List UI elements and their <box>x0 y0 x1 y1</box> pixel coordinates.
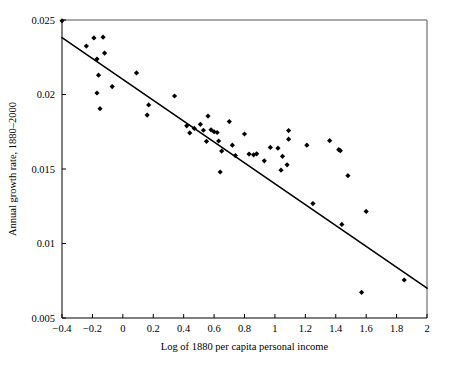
scatter-point <box>59 18 64 23</box>
scatter-point <box>216 138 221 143</box>
scatter-point <box>286 128 291 133</box>
scatter-point <box>286 137 291 142</box>
scatter-point <box>145 112 150 117</box>
scatter-point <box>97 106 102 111</box>
scatter-point <box>84 43 89 48</box>
x-tick-label: 1.2 <box>299 323 312 334</box>
x-tick-label: 1 <box>272 323 277 334</box>
scatter-point <box>187 130 192 135</box>
y-tick-label: 0.025 <box>31 15 55 26</box>
scatter-point <box>204 139 209 144</box>
scatter-point <box>96 73 101 78</box>
scatter-point <box>227 119 232 124</box>
scatter-point <box>345 173 350 178</box>
scatter-point <box>100 35 105 40</box>
y-tick-label: 0.01 <box>37 238 55 249</box>
axes <box>62 20 427 318</box>
x-tick-label: 0 <box>120 323 125 334</box>
x-tick-label: −0.2 <box>83 323 102 334</box>
scatter-point <box>310 201 315 206</box>
y-tick-label: 0.02 <box>37 89 55 100</box>
y-tick-label: 0.005 <box>31 313 55 324</box>
scatter-point <box>110 84 115 89</box>
scatter-point <box>102 50 107 55</box>
scatter-point <box>275 146 280 151</box>
x-tick-label: 1.8 <box>390 323 403 334</box>
y-axis-ticks: 0.0050.010.0150.020.025 <box>31 15 66 324</box>
scatter-point <box>91 35 96 40</box>
x-axis-title: Log of 1880 per capita personal income <box>161 341 329 352</box>
plot-frame <box>62 20 427 318</box>
x-tick-label: 0.6 <box>208 323 221 334</box>
scatter-point <box>146 102 151 107</box>
scatter-point <box>134 70 139 75</box>
y-tick-label: 0.015 <box>31 164 55 175</box>
x-axis-ticks: −0.4−0.200.20.40.60.811.21.41.61.82 <box>52 314 429 334</box>
scatter-point <box>218 169 223 174</box>
scatter-point <box>230 143 235 148</box>
scatter-point <box>205 114 210 119</box>
scatter-point <box>246 152 251 157</box>
scatter-point <box>94 90 99 95</box>
x-tick-label: 0.8 <box>238 323 251 334</box>
scatter-point <box>172 93 177 98</box>
chart-canvas: −0.4−0.200.20.40.60.811.21.41.61.82 0.00… <box>0 0 454 367</box>
x-tick-label: 0.2 <box>147 323 160 334</box>
scatter-point <box>201 128 206 133</box>
scatter-point <box>262 158 267 163</box>
regression-trendline <box>62 38 427 289</box>
x-tick-label: 1.4 <box>329 323 343 334</box>
scatter-point <box>327 138 332 143</box>
scatter-points <box>59 18 406 295</box>
scatter-point <box>304 143 309 148</box>
x-tick-label: 0.4 <box>177 323 191 334</box>
x-tick-label: −0.4 <box>52 323 72 334</box>
scatter-point <box>268 145 273 150</box>
scatter-plot-figure: −0.4−0.200.20.40.60.811.21.41.61.82 0.00… <box>0 0 454 367</box>
scatter-point <box>364 209 369 214</box>
y-axis-title: Annual growth rate, 1880–2000 <box>7 102 18 236</box>
scatter-point <box>359 290 364 295</box>
x-tick-label: 1.6 <box>360 323 373 334</box>
scatter-point <box>284 162 289 167</box>
scatter-point <box>280 154 285 159</box>
scatter-point <box>242 131 247 136</box>
scatter-point <box>339 222 344 227</box>
scatter-point <box>278 168 283 173</box>
scatter-point <box>402 277 407 282</box>
scatter-point <box>198 122 203 127</box>
x-tick-label: 2 <box>424 323 429 334</box>
